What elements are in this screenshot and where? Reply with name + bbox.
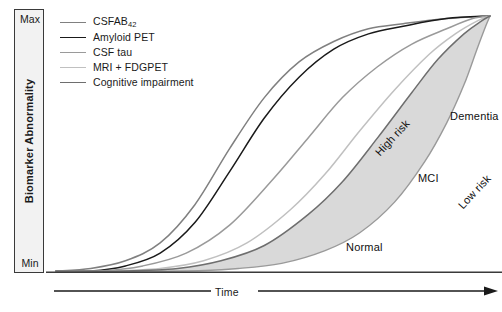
x-axis-arrow-graphic: [46, 283, 502, 307]
legend-item-csfab: CSFAB42: [60, 15, 245, 30]
legend: CSFAB42Amyloid PETCSF tauMRI + FDGPETCog…: [60, 15, 245, 90]
biomarker-cascade-figure: Max Biomarker Abnormality Min Normal MCI…: [0, 0, 502, 312]
legend-label-subscript: 42: [128, 20, 137, 29]
x-axis-title: Time: [215, 286, 239, 298]
legend-item-amyloid-pet: Amyloid PET: [60, 30, 245, 45]
y-axis-min-label: Min: [15, 257, 45, 269]
legend-item-label: MRI + FDGPET: [93, 62, 168, 73]
legend-item-label: CSFAB42: [93, 16, 136, 30]
legend-item-mri-fdgpet: MRI + FDGPET: [60, 60, 245, 75]
legend-line-swatch-icon: [60, 37, 86, 38]
legend-item-label: Amyloid PET: [93, 32, 155, 43]
x-axis: [46, 283, 502, 307]
legend-line-swatch-icon: [60, 22, 86, 23]
zone-label-mci: MCI: [418, 172, 439, 184]
legend-line-swatch-icon: [60, 82, 86, 83]
zone-label-normal: Normal: [346, 241, 383, 253]
legend-line-swatch-icon: [60, 52, 86, 53]
legend-item-csf-tau: CSF tau: [60, 45, 245, 60]
legend-item-cognitive-impairment: Cognitive impairment: [60, 75, 245, 90]
legend-item-label: Cognitive impairment: [93, 77, 194, 88]
legend-line-swatch-icon: [60, 67, 86, 68]
arrow-right-icon: [484, 286, 498, 295]
y-axis-max-label: Max: [15, 13, 45, 25]
zone-label-dementia: Dementia: [450, 110, 499, 122]
legend-item-label: CSF tau: [93, 47, 132, 58]
y-axis: Max Biomarker Abnormality Min: [14, 9, 44, 273]
y-axis-title: Biomarker Abnormality: [23, 79, 35, 203]
